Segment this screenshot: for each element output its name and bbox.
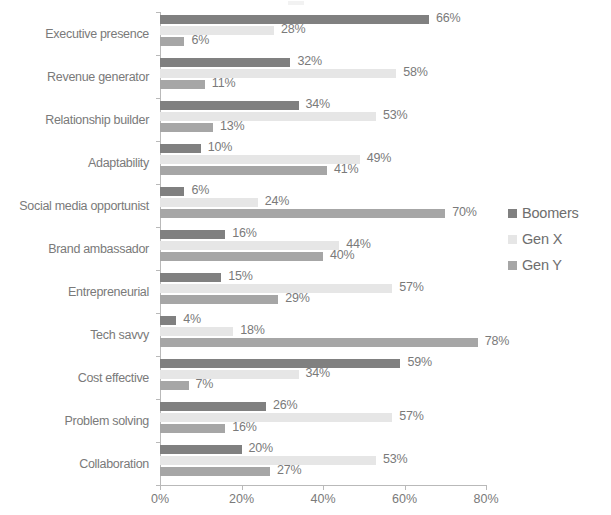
x-axis-tick	[160, 485, 161, 490]
bar-gen-x	[160, 456, 376, 465]
bar-row: 57%	[160, 284, 486, 293]
bar-value-label: 53%	[383, 108, 407, 122]
bar-gen-x	[160, 370, 299, 379]
bar-value-label: 78%	[485, 334, 509, 348]
y-axis-tick	[156, 356, 160, 357]
bar-value-label: 57%	[399, 280, 423, 294]
y-axis-label: Brand ambassador	[48, 242, 149, 256]
bar-group: 34%53%13%	[160, 98, 486, 141]
bar-boomers	[160, 359, 400, 368]
bar-row: 24%	[160, 198, 486, 207]
bar-value-label: 16%	[232, 226, 256, 240]
bar-value-label: 34%	[306, 97, 330, 111]
bar-value-label: 24%	[265, 194, 289, 208]
y-axis-tick	[156, 313, 160, 314]
bar-value-label: 34%	[306, 366, 330, 380]
bar-value-label: 59%	[407, 355, 431, 369]
bar-row: 78%	[160, 338, 486, 347]
bar-row: 10%	[160, 144, 486, 153]
bar-gen-y	[160, 338, 478, 347]
bar-row: 15%	[160, 273, 486, 282]
legend-label: Gen Y	[522, 257, 562, 273]
bar-gen-x	[160, 26, 274, 35]
bar-gen-y	[160, 381, 189, 390]
bar-row: 66%	[160, 15, 486, 24]
legend-label: Gen X	[522, 231, 562, 247]
y-axis-label: Tech savvy	[90, 328, 149, 342]
bar-row: 7%	[160, 381, 486, 390]
bar-value-label: 27%	[277, 463, 301, 477]
bar-group: 15%57%29%	[160, 270, 486, 313]
bar-group: 20%53%27%	[160, 442, 486, 485]
legend-swatch-icon	[508, 235, 517, 244]
bar-row: 6%	[160, 37, 486, 46]
legend-label: Boomers	[522, 205, 579, 221]
bar-row: 49%	[160, 155, 486, 164]
bar-gen-y	[160, 295, 278, 304]
x-axis-tick	[405, 485, 406, 490]
bar-gen-x	[160, 327, 233, 336]
bar-value-label: 18%	[240, 323, 264, 337]
bar-row: 29%	[160, 295, 486, 304]
bar-group: 4%18%78%	[160, 313, 486, 356]
bar-row: 58%	[160, 69, 486, 78]
bar-group: 10%49%41%	[160, 141, 486, 184]
bar-value-label: 15%	[228, 269, 252, 283]
y-axis-category-labels: Executive presenceRevenue generatorRelat…	[0, 12, 155, 485]
bar-row: 26%	[160, 402, 486, 411]
legend-item-gen-x[interactable]: Gen X	[508, 226, 608, 252]
bar-gen-x	[160, 69, 396, 78]
bar-chart: Executive presenceRevenue generatorRelat…	[0, 0, 611, 515]
bar-gen-y	[160, 424, 225, 433]
bar-gen-x	[160, 241, 339, 250]
bar-row: 34%	[160, 101, 486, 110]
bar-boomers	[160, 187, 184, 196]
bar-value-label: 26%	[273, 398, 297, 412]
x-axis-label: 0%	[151, 492, 169, 506]
y-axis-tick	[156, 442, 160, 443]
y-axis-label: Adaptability	[88, 156, 149, 170]
bar-row: 70%	[160, 209, 486, 218]
bar-gen-x	[160, 284, 392, 293]
y-axis-label: Executive presence	[45, 27, 149, 41]
y-axis-label: Problem solving	[65, 414, 149, 428]
bar-value-label: 16%	[232, 420, 256, 434]
bar-row: 41%	[160, 166, 486, 175]
legend-item-boomers[interactable]: Boomers	[508, 200, 608, 226]
y-axis-label: Relationship builder	[45, 113, 149, 127]
bar-value-label: 28%	[281, 22, 305, 36]
bar-group: 59%34%7%	[160, 356, 486, 399]
y-axis-label: Social media opportunist	[19, 199, 149, 213]
bar-value-label: 6%	[191, 33, 209, 47]
x-axis-label: 40%	[310, 492, 335, 506]
y-axis-tick	[156, 399, 160, 400]
bar-value-label: 4%	[183, 312, 201, 326]
bar-value-label: 20%	[249, 441, 273, 455]
bar-row: 11%	[160, 80, 486, 89]
bar-boomers	[160, 273, 221, 282]
x-axis-tick	[323, 485, 324, 490]
bar-row: 53%	[160, 112, 486, 121]
bar-gen-y	[160, 252, 323, 261]
bar-boomers	[160, 101, 299, 110]
bar-boomers	[160, 445, 242, 454]
bar-value-label: 32%	[297, 54, 321, 68]
bar-gen-x	[160, 155, 360, 164]
x-axis-label: 60%	[392, 492, 417, 506]
bar-boomers	[160, 58, 290, 67]
bar-row: 57%	[160, 413, 486, 422]
bar-boomers	[160, 230, 225, 239]
bar-group: 32%58%11%	[160, 55, 486, 98]
bar-gen-y	[160, 467, 270, 476]
bar-row: 6%	[160, 187, 486, 196]
bar-row: 13%	[160, 123, 486, 132]
bar-row: 18%	[160, 327, 486, 336]
bar-row: 16%	[160, 230, 486, 239]
bar-gen-y	[160, 37, 184, 46]
bar-gen-y	[160, 166, 327, 175]
bar-row: 20%	[160, 445, 486, 454]
bar-gen-y	[160, 209, 445, 218]
legend-item-gen-y[interactable]: Gen Y	[508, 252, 608, 278]
bar-row: 53%	[160, 456, 486, 465]
bar-row: 44%	[160, 241, 486, 250]
